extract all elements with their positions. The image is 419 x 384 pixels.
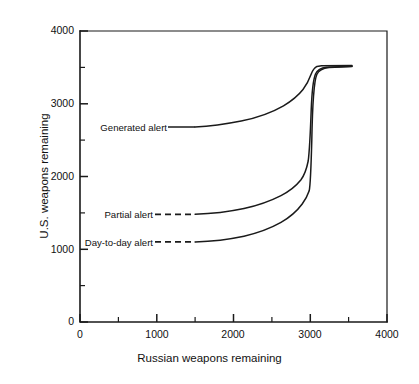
x-tick-label-1000: 1000 <box>137 328 177 340</box>
x-tick-label-3000: 3000 <box>290 328 330 340</box>
y-axis-title: U.S. weapons remaining <box>38 46 50 306</box>
series-label-partial-alert: Partial alert <box>62 209 153 220</box>
y-tick-label-0: 0 <box>28 315 74 327</box>
series-label-generated-alert: Generated alert <box>62 122 167 133</box>
x-axis-title: Russian weapons remaining <box>0 352 419 364</box>
x-tick-label-4000: 4000 <box>367 328 407 340</box>
y-tick-label-4000: 4000 <box>28 24 74 36</box>
x-tick-label-2000: 2000 <box>213 328 253 340</box>
x-tick-label-0: 0 <box>60 328 100 340</box>
y-tick-label-2000: 2000 <box>28 170 74 182</box>
series-label-day-to-day-alert: Day-to-day alert <box>44 237 153 248</box>
y-tick-label-3000: 3000 <box>28 97 74 109</box>
